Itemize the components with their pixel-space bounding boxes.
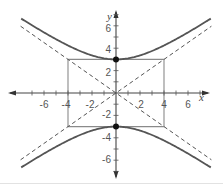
y-tick-label: -6 — [102, 154, 111, 165]
hyperbola-chart: -6 -4 -2 2 4 6 6 4 2 -2 -4 -6 x y — [0, 0, 223, 187]
y-axis-arrow-up — [114, 10, 119, 18]
y-tick-label: 2 — [105, 67, 111, 78]
vertex-point — [113, 124, 119, 130]
y-axis-label: y — [106, 10, 112, 22]
x-tick-label: -2 — [86, 99, 95, 110]
x-tick-label: -4 — [62, 99, 71, 110]
plot-area: -6 -4 -2 2 4 6 6 4 2 -2 -4 -6 x y — [0, 0, 223, 187]
x-axis-arrow-left — [8, 91, 16, 96]
y-axis-arrow-down — [114, 171, 119, 179]
x-tick-label: 2 — [138, 99, 144, 110]
y-tick-label: 6 — [105, 23, 111, 34]
y-tick-label: 4 — [105, 44, 111, 55]
x-tick-label: 6 — [185, 99, 191, 110]
bottom-divider — [0, 183, 223, 184]
y-tick-label: -2 — [102, 109, 111, 120]
x-tick-label: 4 — [161, 99, 167, 110]
x-axis-label: x — [198, 91, 204, 103]
x-tick-label: -6 — [40, 99, 49, 110]
vertex-point — [113, 56, 119, 62]
y-tick-label: -4 — [102, 132, 111, 143]
